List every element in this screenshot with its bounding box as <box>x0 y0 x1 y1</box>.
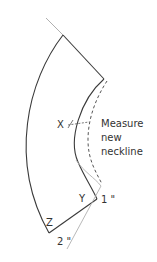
label-z: Z <box>46 217 53 228</box>
label-x: X <box>57 119 64 130</box>
collar-outer-curve <box>26 35 63 233</box>
label-new: new <box>101 132 122 143</box>
label-one-inch: 1 " <box>101 194 115 205</box>
label-y: Y <box>78 193 86 204</box>
collar-top-edge <box>63 35 104 79</box>
label-measure: Measure <box>101 118 144 129</box>
collar-bottom-edge <box>49 199 97 233</box>
label-neckline: neckline <box>101 146 143 157</box>
top-guide-line <box>46 18 63 35</box>
collar-pattern-diagram: X Measure new neckline Y 1 " Z 2 " <box>0 0 157 262</box>
collar-inner-curve <box>74 79 104 199</box>
label-two-inch: 2 " <box>57 236 71 247</box>
